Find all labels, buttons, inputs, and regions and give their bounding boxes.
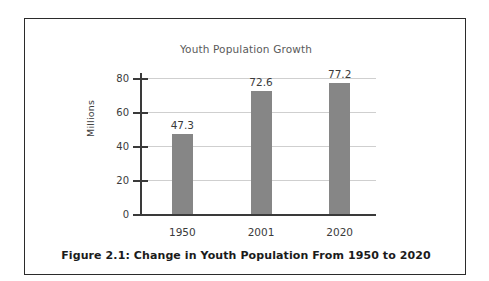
figure-root: Youth Population Growth Millions 0204060… — [0, 0, 489, 281]
bar-value-label: 77.2 — [310, 68, 370, 80]
y-axis-tick-label: 40 — [116, 141, 129, 152]
plot-area: 020406080 47.372.677.2 195020012020 — [140, 73, 376, 215]
y-axis-tick-label: 60 — [116, 107, 129, 118]
y-axis-tick-label: 0 — [123, 209, 129, 220]
x-axis-tick-label: 1950 — [152, 226, 212, 238]
x-axis-tick-label: 2001 — [231, 226, 291, 238]
figure-frame: Youth Population Growth Millions 0204060… — [24, 18, 466, 275]
bar-value-label: 47.3 — [152, 119, 212, 131]
y-axis-tick-mark-inner — [141, 180, 148, 182]
bar-value-label: 72.6 — [231, 76, 291, 88]
y-axis-tick-label: 80 — [116, 73, 129, 84]
y-axis-line — [140, 73, 142, 215]
y-axis-tick-mark-inner — [141, 146, 148, 148]
figure-caption: Figure 2.1: Change in Youth Population F… — [25, 249, 467, 262]
bar — [251, 91, 272, 214]
x-axis-tick-label: 2020 — [310, 226, 370, 238]
y-axis-tick-mark-inner — [141, 78, 148, 80]
bar — [172, 134, 193, 214]
y-axis-tick-mark-inner — [141, 112, 148, 114]
chart-title: Youth Population Growth — [25, 43, 467, 55]
y-axis-tick-label: 20 — [116, 175, 129, 186]
bar — [329, 83, 350, 214]
y-axis-title: Millions — [85, 100, 96, 137]
x-axis-line — [140, 214, 376, 216]
